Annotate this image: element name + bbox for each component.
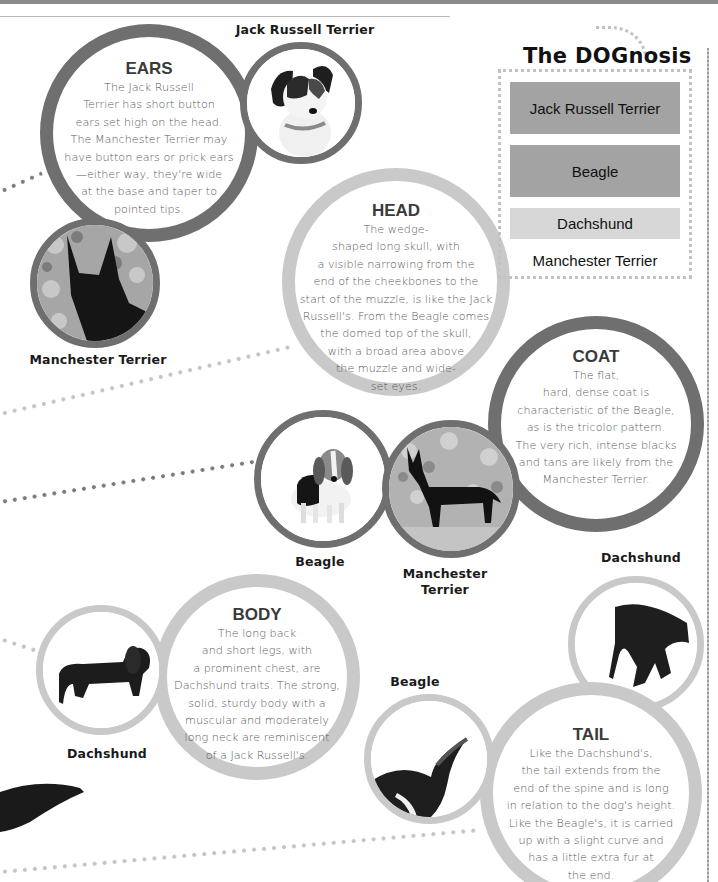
tail-title: TAIL — [573, 725, 610, 745]
mt-coat-caption: Manchester Terrier — [390, 566, 500, 598]
legend-item-manchester-terrier: Manchester Terrier — [510, 248, 680, 272]
ears-trait-circle: EARS The Jack Russell Terrier has short … — [40, 24, 258, 242]
jrt-ears-caption: Jack Russell Terrier — [230, 22, 380, 38]
manchester-terrier-ears-photo — [30, 218, 160, 348]
manchester-terrier-standing-image — [389, 427, 513, 551]
dachshund-tail-silhouette — [0, 778, 90, 838]
tail-description: Like the Dachshund's, the tail extends f… — [507, 745, 676, 882]
tail-trait-circle: TAIL Like the Dachshund's, the tail exte… — [480, 682, 702, 882]
legend-item-jack-russell-terrier: Jack Russell Terrier — [510, 82, 680, 134]
head-title: HEAD — [372, 201, 420, 221]
page-top-rule — [0, 16, 450, 17]
ears-description: The Jack Russell Terrier has short butto… — [64, 79, 233, 218]
body-trait-circle: BODY The long back and short legs, with … — [154, 574, 360, 780]
jack-russell-puppy-image — [247, 49, 355, 157]
dotted-trail-coat — [0, 459, 259, 504]
body-description: The long back and short legs, with a pro… — [174, 625, 340, 764]
jack-russell-terrier-photo — [240, 42, 362, 164]
coat-description: The flat, hard, dense coat is characteri… — [515, 367, 676, 489]
legend-item-beagle: Beagle — [510, 145, 680, 197]
dachshund-tail-caption: Dachshund — [586, 550, 696, 566]
body-title: BODY — [232, 605, 281, 625]
dachshund-body-photo — [36, 605, 166, 735]
page-right-edge — [707, 48, 709, 882]
beagle-tail-caption: Beagle — [370, 674, 460, 690]
coat-trait-circle: COAT The flat, hard, dense coat is chara… — [488, 316, 704, 532]
coat-title: COAT — [573, 347, 620, 367]
legend-item-dachshund: Dachshund — [510, 208, 680, 239]
dachshund-body-caption: Dachshund — [52, 746, 162, 762]
beagle-coat-caption: Beagle — [270, 554, 370, 570]
dotted-trail-body — [0, 637, 37, 653]
manchester-terrier-coat-photo — [382, 420, 520, 558]
legend-title: The DOGnosis — [523, 44, 692, 68]
beagle-coat-photo — [254, 410, 392, 548]
beagle-tail-photo — [364, 694, 494, 824]
ears-title: EARS — [125, 59, 172, 79]
head-trait-circle: HEAD The wedge- shaped long skull, with … — [282, 168, 510, 396]
dotted-trail-ears — [0, 171, 43, 193]
head-description: The wedge- shaped long skull, with a vis… — [300, 221, 493, 395]
page-top-border — [0, 0, 718, 4]
beagle-tail-image — [371, 701, 487, 817]
dachshund-standing-image — [43, 612, 159, 728]
manchester-terrier-head-image — [37, 225, 153, 341]
mt-ears-caption: Manchester Terrier — [18, 352, 178, 368]
beagle-puppy-image — [261, 417, 385, 541]
